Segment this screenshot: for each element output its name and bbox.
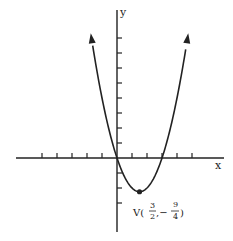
vertex-label-suffix: ) [180,207,184,218]
arrow-up-left-icon [89,33,96,43]
vertex-label-prefix: V( [132,207,144,218]
y-axis-label: y [119,6,127,19]
vertex-y-numerator: 9 [173,200,178,209]
vertex-point [137,189,142,194]
vertex-label: V( 3 2 ,− 9 4 ) [132,200,184,221]
arrow-up-right-icon [183,33,190,43]
vertex-x-denominator: 2 [150,212,155,221]
y-axis-ticks [117,38,122,203]
vertex-x-numerator: 3 [150,201,155,210]
parabola-curve [93,46,186,192]
x-axis-label: x [215,159,222,172]
parabola-chart: y x V( 3 2 ,− 9 4 ) [0,0,233,241]
vertex-y-denominator: 4 [173,212,178,221]
vertex-label-separator: ,− [156,207,168,218]
